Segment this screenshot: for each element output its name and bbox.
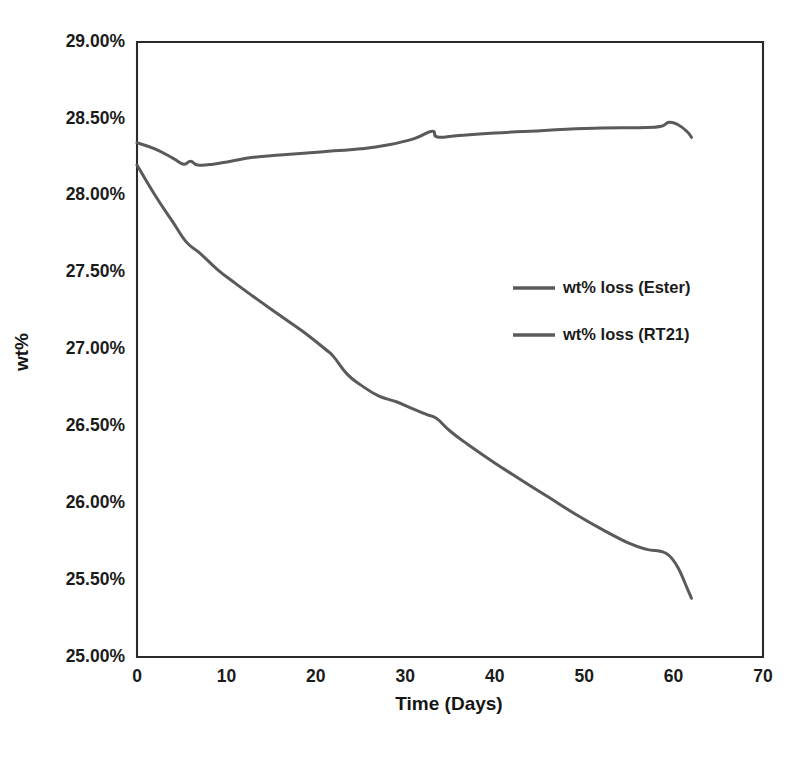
x-tick-label: 60 xyxy=(664,666,684,686)
y-tick-label: 26.50% xyxy=(66,415,126,435)
x-tick-label: 0 xyxy=(132,666,142,686)
chart-legend: wt% loss (Ester)wt% loss (RT21) xyxy=(513,278,690,343)
y-tick-label: 27.50% xyxy=(66,261,126,281)
y-tick-label: 28.00% xyxy=(66,184,126,204)
y-tick-label: 26.00% xyxy=(66,492,126,512)
y-axis-tick-labels: 25.00%25.50%26.00%26.50%27.00%27.50%28.0… xyxy=(66,31,126,666)
y-tick-label: 25.50% xyxy=(66,569,126,589)
line-chart: 25.00%25.50%26.00%26.50%27.00%27.50%28.0… xyxy=(0,0,809,761)
x-tick-label: 10 xyxy=(217,666,237,686)
axis-frame xyxy=(137,42,763,657)
x-tick-label: 20 xyxy=(306,666,326,686)
legend-label-ester: wt% loss (Ester) xyxy=(562,278,690,296)
y-axis-title: wt% xyxy=(11,333,32,372)
y-tick-label: 25.00% xyxy=(66,646,126,666)
x-tick-label: 40 xyxy=(485,666,505,686)
x-tick-label: 50 xyxy=(574,666,594,686)
series-line-ester xyxy=(137,122,691,165)
y-tick-label: 28.50% xyxy=(66,108,126,128)
y-tick-label: 27.00% xyxy=(66,338,126,358)
y-tick-label: 29.00% xyxy=(66,31,126,51)
x-tick-label: 30 xyxy=(396,666,416,686)
data-series-group xyxy=(137,122,691,598)
x-tick-label: 70 xyxy=(753,666,773,686)
chart-container: 25.00%25.50%26.00%26.50%27.00%27.50%28.0… xyxy=(0,0,809,761)
series-line-rt21 xyxy=(137,165,691,598)
x-axis-title: Time (Days) xyxy=(395,693,502,714)
x-axis-tick-labels: 010203040506070 xyxy=(132,666,773,686)
legend-label-rt21: wt% loss (RT21) xyxy=(562,325,690,343)
